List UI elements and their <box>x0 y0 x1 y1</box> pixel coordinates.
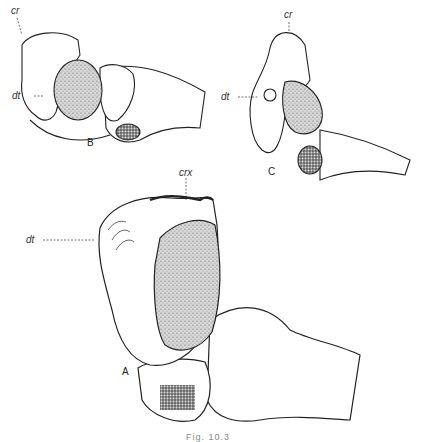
panel-b-drawing <box>22 33 205 142</box>
figure-caption: Fig. 10.3 <box>186 432 230 442</box>
panel-label-c: C <box>268 167 275 177</box>
panel-label-b: B <box>87 138 94 148</box>
label-c-cr: cr <box>284 10 292 20</box>
label-b-dt: dt <box>12 91 20 101</box>
label-b-cr: cr <box>11 6 19 16</box>
label-a-dt: dt <box>26 235 34 245</box>
panel-label-a: A <box>122 367 129 377</box>
panel-a-drawing <box>99 196 360 421</box>
label-c-dt: dt <box>221 92 229 102</box>
panel-c-drawing <box>250 33 410 180</box>
label-a-crx: crx <box>179 168 192 178</box>
